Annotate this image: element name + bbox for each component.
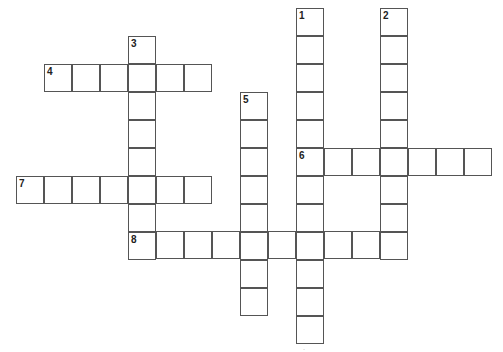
crossword-cell[interactable] xyxy=(128,92,156,120)
crossword-cell[interactable] xyxy=(352,231,380,259)
crossword-cell[interactable] xyxy=(380,204,408,232)
clue-number: 7 xyxy=(19,178,25,189)
crossword-cell[interactable] xyxy=(268,231,296,259)
crossword-cell[interactable] xyxy=(156,64,184,92)
crossword-cell[interactable] xyxy=(128,176,156,204)
crossword-cell[interactable] xyxy=(296,120,324,148)
crossword-cell[interactable] xyxy=(436,148,464,176)
crossword-cell[interactable] xyxy=(240,120,268,148)
clue-number: 3 xyxy=(131,38,137,49)
clue-number: 8 xyxy=(131,234,137,245)
crossword-cell[interactable] xyxy=(296,288,324,316)
crossword-cell[interactable] xyxy=(72,176,100,204)
crossword-cell[interactable] xyxy=(128,148,156,176)
crossword-cell[interactable] xyxy=(296,176,324,204)
crossword-cell[interactable] xyxy=(324,231,352,259)
crossword-cell[interactable] xyxy=(44,176,72,204)
crossword-cell[interactable] xyxy=(184,176,212,204)
crossword-cell[interactable] xyxy=(184,231,212,259)
crossword-cell[interactable] xyxy=(464,148,492,176)
crossword-cell[interactable]: 3 xyxy=(128,36,156,64)
clue-number: 2 xyxy=(383,10,389,21)
crossword-cell[interactable] xyxy=(380,64,408,92)
crossword-cell[interactable] xyxy=(324,148,352,176)
crossword-cell[interactable] xyxy=(212,231,240,259)
crossword-cell[interactable] xyxy=(240,288,268,316)
crossword-cell[interactable] xyxy=(296,204,324,232)
clue-number: 6 xyxy=(299,150,305,161)
crossword-cell[interactable] xyxy=(296,316,324,344)
crossword-cell[interactable] xyxy=(156,231,184,259)
crossword-cell[interactable] xyxy=(72,64,100,92)
crossword-cell[interactable] xyxy=(296,92,324,120)
clue-number: 5 xyxy=(243,94,249,105)
crossword-cell[interactable] xyxy=(380,92,408,120)
crossword-cell[interactable]: 6 xyxy=(296,148,324,176)
crossword-cell[interactable]: 5 xyxy=(240,92,268,120)
crossword-cell[interactable] xyxy=(352,148,380,176)
crossword-cell[interactable]: 1 xyxy=(296,8,324,36)
crossword-cell[interactable] xyxy=(156,176,184,204)
crossword-cell[interactable] xyxy=(100,176,128,204)
crossword-cell[interactable]: 4 xyxy=(44,64,72,92)
crossword-cell[interactable] xyxy=(240,176,268,204)
crossword-cell[interactable] xyxy=(128,120,156,148)
crossword-cell[interactable] xyxy=(296,260,324,288)
crossword-cell[interactable] xyxy=(240,148,268,176)
stray-mark: · xyxy=(303,346,305,352)
crossword-cell[interactable] xyxy=(240,232,268,260)
crossword-cell[interactable] xyxy=(128,64,156,92)
crossword-cell[interactable] xyxy=(240,260,268,288)
crossword-cell[interactable] xyxy=(100,64,128,92)
crossword-cell[interactable] xyxy=(128,204,156,232)
crossword-cell[interactable] xyxy=(296,232,324,260)
crossword-cell[interactable] xyxy=(184,64,212,92)
crossword-cell[interactable] xyxy=(408,148,436,176)
crossword-cell[interactable]: 7 xyxy=(16,176,44,204)
crossword-cell[interactable]: 2 xyxy=(380,8,408,36)
crossword-cell[interactable] xyxy=(240,204,268,232)
crossword-cell[interactable] xyxy=(380,120,408,148)
clue-number: 4 xyxy=(47,66,53,77)
crossword-cell[interactable] xyxy=(296,36,324,64)
crossword-cell[interactable] xyxy=(380,176,408,204)
crossword-cell[interactable] xyxy=(380,232,408,260)
crossword-cell[interactable] xyxy=(380,36,408,64)
crossword-cell[interactable] xyxy=(380,148,408,176)
crossword-cell[interactable] xyxy=(296,64,324,92)
crossword-cell[interactable]: 8 xyxy=(128,232,156,260)
clue-number: 1 xyxy=(299,10,305,21)
